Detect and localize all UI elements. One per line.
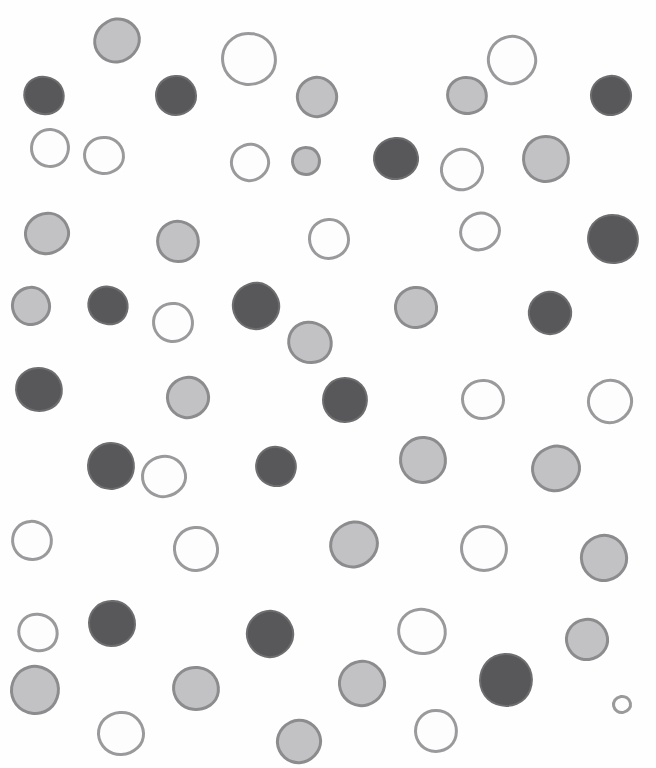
light-circle (85, 9, 149, 72)
outline-circle (96, 710, 146, 757)
light-circle (287, 142, 324, 179)
light-circle (268, 711, 329, 768)
light-circle (525, 438, 587, 498)
outline-circle (5, 514, 58, 566)
outline-circle (225, 137, 276, 187)
dark-circle (82, 437, 140, 495)
dark-circle (471, 645, 540, 714)
light-circle (150, 213, 207, 269)
outline-circle (453, 205, 507, 258)
outline-circle (456, 521, 511, 576)
light-circle (332, 654, 392, 713)
dark-circle (17, 70, 70, 121)
light-circle (392, 284, 440, 331)
light-circle (562, 615, 612, 664)
outline-circle (138, 452, 190, 502)
light-circle (575, 529, 633, 587)
outline-circle (461, 379, 505, 420)
light-circle (19, 207, 75, 260)
dark-circle (80, 279, 135, 333)
light-circle (8, 283, 54, 329)
dark-circle (88, 600, 137, 648)
outline-circle (171, 524, 220, 573)
outline-circle (410, 705, 462, 757)
dark-circle (239, 603, 301, 665)
light-circle (397, 434, 449, 486)
outline-circle (432, 140, 491, 199)
outline-circle (580, 372, 640, 431)
outline-circle (481, 29, 543, 91)
dark-circle (225, 275, 286, 336)
dark-circle (586, 71, 635, 119)
dark-circle (582, 209, 644, 269)
dark-circle (154, 74, 197, 116)
outline-circle (23, 121, 76, 174)
circle-pattern-canvas (0, 0, 656, 768)
outline-circle (610, 693, 634, 716)
light-circle (1, 656, 69, 724)
light-circle (321, 512, 387, 577)
light-circle (289, 69, 345, 125)
light-circle (161, 371, 214, 423)
dark-circle (520, 283, 580, 343)
dark-circle (248, 439, 304, 495)
outline-circle (308, 218, 351, 261)
light-circle (170, 664, 222, 714)
outline-circle (392, 602, 452, 660)
light-circle (281, 315, 338, 370)
outline-circle (151, 301, 196, 345)
dark-circle (315, 370, 375, 430)
outline-circle (82, 135, 126, 176)
dark-circle (12, 364, 66, 416)
outline-circle (218, 29, 280, 89)
dark-circle (371, 135, 421, 183)
light-circle (519, 132, 573, 186)
light-circle (442, 72, 491, 119)
outline-circle (11, 606, 65, 659)
